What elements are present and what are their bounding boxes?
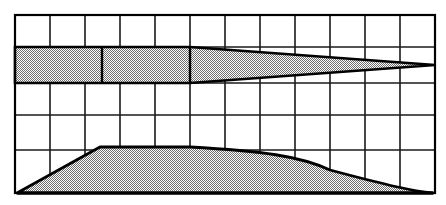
figure-canvas	[0, 0, 446, 205]
technical-drawing	[0, 0, 446, 205]
